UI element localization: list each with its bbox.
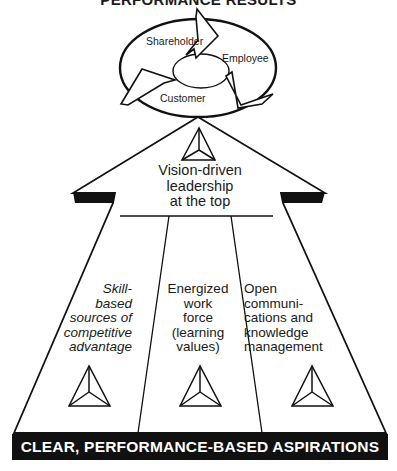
left-shoulder-band xyxy=(73,192,115,203)
cycle-label-customer: Customer xyxy=(160,93,206,104)
diagram-graphic xyxy=(0,0,397,471)
column-open-communications: Open communi- cations and knowledge mana… xyxy=(244,282,356,355)
col1-line: advantage xyxy=(44,340,132,355)
col3-line: Open xyxy=(244,282,356,297)
column-skill-based: Skill- based sources of competitive adva… xyxy=(44,282,132,355)
col2-line: force xyxy=(146,311,250,326)
col1-line: based xyxy=(44,297,132,312)
col1-line: competitive xyxy=(44,326,132,341)
leadership-label: Vision-driven leadership at the top xyxy=(140,163,260,210)
aspirations-base-bar: CLEAR, PERFORMANCE-BASED ASPIRATIONS xyxy=(12,434,388,460)
cycle-label-shareholder: Shareholder xyxy=(146,36,203,47)
col3-line: cations and xyxy=(244,311,356,326)
col2-line: work xyxy=(146,297,250,312)
leadership-line-1: Vision-driven xyxy=(140,163,260,179)
col3-line: knowledge xyxy=(244,326,356,341)
cycle-inner-ring xyxy=(173,54,229,88)
cycle-label-employee: Employee xyxy=(222,53,269,64)
leadership-line-3: at the top xyxy=(140,194,260,210)
col3-line: management xyxy=(244,340,356,355)
right-shoulder-band xyxy=(281,192,325,203)
col2-line: Energized xyxy=(146,282,250,297)
col2-line: values) xyxy=(146,340,250,355)
column-energized-workforce: Energized work force (learning values) xyxy=(146,282,250,355)
col1-line: Skill- xyxy=(44,282,132,297)
col3-line: communi- xyxy=(244,297,356,312)
leadership-line-2: leadership xyxy=(140,179,260,195)
col2-line: (learning xyxy=(146,326,250,341)
col1-line: sources of xyxy=(44,311,132,326)
